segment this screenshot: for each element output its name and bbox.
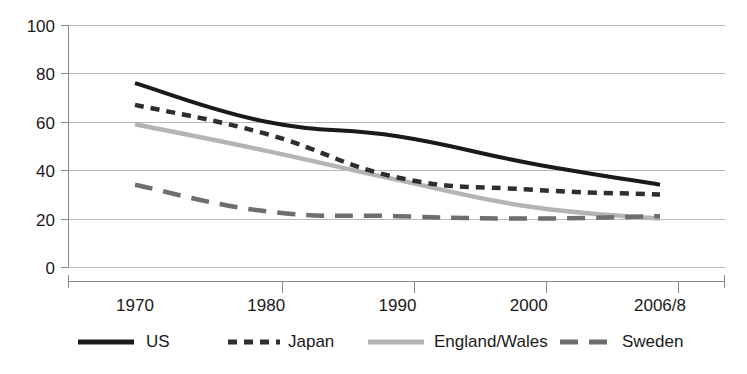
chart-canvas: 020406080100 19701980199020002006/8 USJa…	[0, 0, 747, 374]
line-chart: 020406080100 19701980199020002006/8 USJa…	[0, 0, 747, 374]
y-tick-label-100: 100	[27, 17, 55, 36]
legend-label-england-wales: England/Wales	[434, 332, 548, 351]
x-tick-label-1990: 1990	[379, 296, 417, 315]
x-tick-label-1970: 1970	[116, 296, 154, 315]
y-tick-label-40: 40	[36, 162, 55, 181]
y-tick-label-80: 80	[36, 65, 55, 84]
x-tick-label-1980: 1980	[247, 296, 285, 315]
x-tick-label-2006/8: 2006/8	[634, 296, 686, 315]
legend-label-sweden: Sweden	[622, 332, 683, 351]
chart-background	[0, 0, 747, 374]
x-tick-label-2000: 2000	[510, 296, 548, 315]
legend-label-japan: Japan	[288, 332, 334, 351]
y-tick-label-60: 60	[36, 114, 55, 133]
y-tick-label-20: 20	[36, 211, 55, 230]
y-tick-label-0: 0	[46, 259, 55, 278]
legend-label-us: US	[146, 332, 170, 351]
